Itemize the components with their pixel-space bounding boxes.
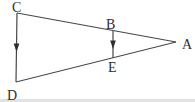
point-label-B: B — [106, 17, 115, 32]
segment-CA — [17, 13, 176, 42]
down-arrowhead-CD — [14, 44, 20, 53]
point-label-A: A — [182, 37, 193, 52]
segment-DA — [16, 42, 176, 82]
diagram-canvas: ABCDE — [0, 0, 195, 102]
point-label-E: E — [108, 60, 117, 75]
point-label-C: C — [12, 0, 21, 15]
down-arrowhead-BE — [110, 41, 116, 50]
point-label-D: D — [7, 88, 17, 102]
geometry-diagram: ABCDE — [0, 0, 195, 102]
